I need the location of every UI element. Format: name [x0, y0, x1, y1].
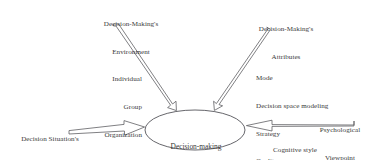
node-label-line: Decision-Making's [88, 20, 174, 29]
node-label-line: Decision Situation's [4, 135, 96, 144]
list-item: Mode [256, 74, 356, 83]
diagram-canvas: Decision-Making's Environment Decision-M… [0, 0, 386, 160]
node-label-line: Environment [88, 48, 174, 57]
node-cognitive-style: Cognitive style (Decision style) [250, 128, 340, 160]
list-item: Group [86, 103, 142, 112]
center-node-label-text: Decision-making [152, 142, 240, 151]
list-item: Individual [86, 75, 142, 84]
center-node-label: Decision-making [152, 124, 240, 160]
node-decision-situation-features: Decision Situation's Features [4, 117, 96, 160]
node-label-line: Cognitive style [250, 146, 340, 155]
node-label-line: Decision-Making's [242, 25, 330, 34]
